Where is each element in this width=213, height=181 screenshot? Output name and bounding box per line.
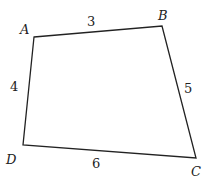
vertex-label-c: C [191,164,201,179]
vertex-label-a: A [19,22,29,37]
side-label-cd: 6 [92,156,100,171]
side-label-bc: 5 [184,81,192,96]
quadrilateral-abcd [23,26,196,158]
vertex-label-b: B [157,8,168,23]
side-label-da: 4 [10,79,18,94]
vertex-label-d: D [5,152,17,167]
side-label-ab: 3 [87,14,95,29]
quadrilateral-diagram: A B C D 3 5 6 4 [0,0,213,181]
